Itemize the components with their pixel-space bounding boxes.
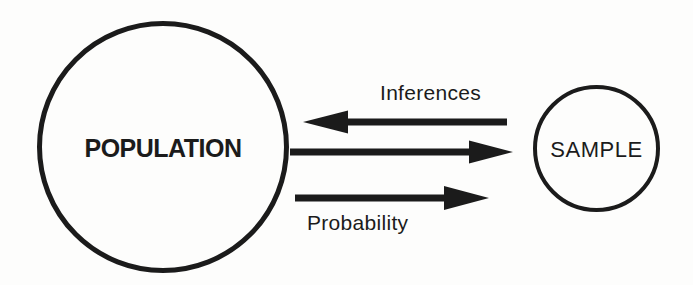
sampling-arrow	[290, 141, 513, 164]
inferences-arrow-label: Inferences	[380, 81, 481, 105]
inferences-arrow	[303, 111, 507, 134]
population-sample-diagram: POPULATION SAMPLE Inferences Probability	[0, 0, 693, 285]
probability-arrow	[295, 186, 489, 210]
arrow-layer	[0, 0, 693, 285]
probability-arrow-label: Probability	[307, 211, 408, 235]
